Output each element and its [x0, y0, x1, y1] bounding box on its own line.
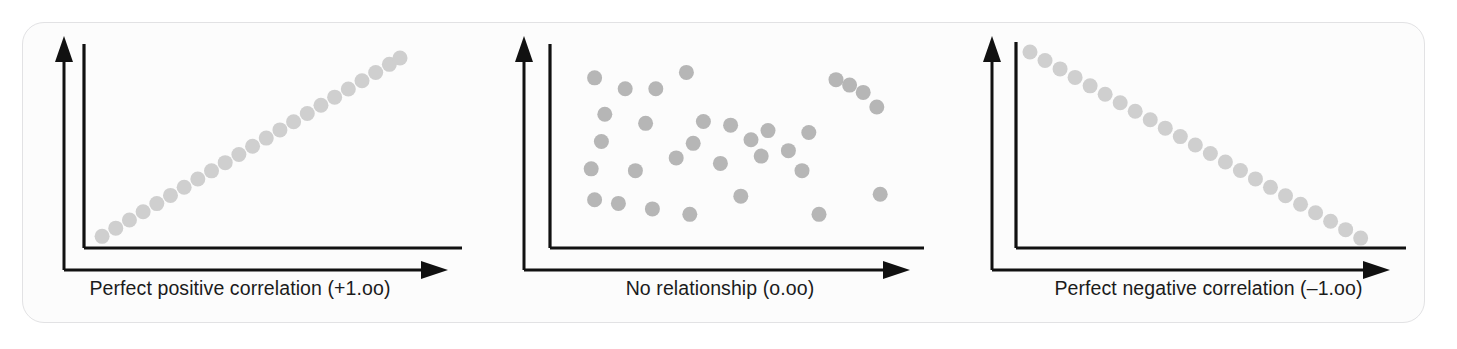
data-point [628, 163, 643, 178]
data-point [744, 132, 759, 147]
data-point [594, 134, 609, 149]
data-point [597, 107, 612, 122]
data-point [587, 192, 602, 207]
data-point [1338, 222, 1353, 237]
data-point [733, 189, 748, 204]
data-point [259, 131, 274, 146]
data-points-group [584, 65, 888, 222]
data-point [149, 196, 164, 211]
data-point [682, 207, 697, 222]
data-point [584, 161, 599, 176]
data-point [1308, 205, 1323, 220]
outer-arrow-axes [983, 36, 1390, 279]
data-point [1128, 104, 1143, 119]
outer-arrow-axes [55, 36, 448, 279]
panel-perfect-positive: Perfect positive correlation (+1.oo) [0, 0, 480, 349]
data-point [1068, 70, 1083, 85]
data-point [856, 85, 871, 100]
data-point [1233, 163, 1248, 178]
data-point [754, 149, 769, 164]
data-point [1278, 188, 1293, 203]
data-point [761, 123, 776, 138]
data-point [108, 221, 123, 236]
data-point [368, 65, 383, 80]
data-point [204, 163, 219, 178]
data-point [801, 125, 816, 140]
data-point [1053, 61, 1068, 76]
data-point [1203, 146, 1218, 161]
data-point [618, 81, 633, 96]
data-point [1113, 95, 1128, 110]
data-point [686, 136, 701, 151]
data-point [669, 150, 684, 165]
data-point [869, 99, 884, 114]
data-point [1083, 78, 1098, 93]
data-point [648, 81, 663, 96]
data-point [95, 229, 110, 244]
data-point [393, 51, 408, 66]
data-points-group [1023, 45, 1369, 246]
data-point [286, 114, 301, 129]
data-point [587, 70, 602, 85]
data-point [163, 188, 178, 203]
panel-caption-perfect-negative: Perfect negative correlation (–1.oo) [960, 277, 1457, 300]
data-point [696, 114, 711, 129]
data-point [1218, 154, 1233, 169]
data-point [177, 180, 192, 195]
data-point [842, 78, 857, 93]
data-point [1353, 231, 1368, 246]
data-point [327, 90, 342, 105]
data-point [136, 204, 151, 219]
data-point [122, 212, 137, 227]
data-point [1248, 171, 1263, 186]
data-point [812, 207, 827, 222]
panel-caption-no-relationship: No relationship (o.oo) [480, 277, 960, 300]
data-point [1098, 87, 1113, 102]
data-point [611, 196, 626, 211]
data-point [795, 163, 810, 178]
data-point [723, 118, 738, 133]
data-point [1188, 138, 1203, 153]
data-point [1023, 45, 1038, 60]
data-point [313, 98, 328, 113]
data-point [1038, 53, 1053, 68]
data-point [1173, 129, 1188, 144]
data-point [1263, 180, 1278, 195]
data-point [679, 65, 694, 80]
data-point [1143, 112, 1158, 127]
data-point [645, 201, 660, 216]
panel-perfect-negative: Perfect negative correlation (–1.oo) [960, 0, 1457, 349]
data-point [231, 147, 246, 162]
data-point [341, 81, 356, 96]
data-point [1323, 214, 1338, 229]
data-point [355, 73, 370, 88]
data-point [713, 156, 728, 171]
data-point [1293, 197, 1308, 212]
data-point [300, 106, 315, 121]
data-point [781, 143, 796, 158]
data-point [218, 155, 233, 170]
data-points-group [95, 51, 408, 244]
data-point [190, 172, 205, 187]
data-point [272, 122, 287, 137]
data-point [873, 187, 888, 202]
outer-arrow-axes [515, 36, 910, 279]
data-point [1158, 121, 1173, 136]
panel-caption-perfect-positive: Perfect positive correlation (+1.oo) [0, 277, 480, 300]
data-point [829, 72, 844, 87]
correlation-scatterplot-figure: Perfect positive correlation (+1.oo) No … [0, 0, 1457, 349]
data-point [245, 139, 260, 154]
data-point [638, 116, 653, 131]
panel-no-relationship: No relationship (o.oo) [480, 0, 960, 349]
